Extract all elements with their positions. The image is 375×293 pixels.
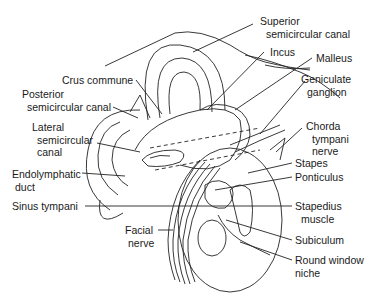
label-ponticulus: Ponticulus [295, 171, 343, 184]
label-facial-nerve: Facial nerve [125, 224, 154, 249]
label-geniculate-ganglion: Geniculate ganglion [301, 73, 351, 98]
label-round-window-niche: Round window niche [295, 254, 364, 279]
label-stapedius-muscle: Stapedius muscle [295, 200, 342, 225]
label-crus-commune: Crus commune [62, 74, 133, 87]
label-endolymphatic-duct: Endolymphatic duct [12, 168, 81, 193]
anatomy-figure: Superior semicircular canal Incus Malleu… [0, 0, 375, 293]
label-incus: Incus [270, 46, 295, 59]
label-lateral-semicircular-canal: Lateral semicircular canal [32, 121, 93, 159]
label-subiculum: Subiculum [295, 234, 344, 247]
label-chorda-tympani-nerve: Chorda tympani nerve [306, 120, 349, 158]
label-superior-semicircular-canal: Superior semicircular canal [260, 15, 350, 40]
label-posterior-semicircular-canal: Posterior semicircular canal [22, 88, 111, 113]
label-malleus: Malleus [316, 52, 352, 65]
label-sinus-tympani: Sinus tympani [12, 200, 78, 213]
label-stapes: Stapes [295, 157, 328, 170]
